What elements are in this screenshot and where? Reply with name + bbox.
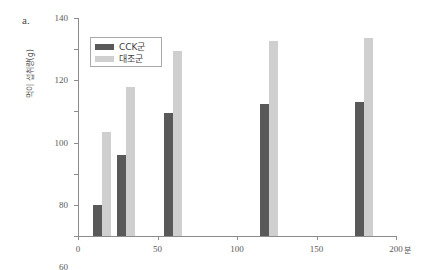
legend-item-control: 대조군 [95,53,157,64]
bar-cck [260,104,269,236]
x-tick-mark [158,236,159,240]
y-tick-label: 80 [59,200,68,210]
legend-swatch-control-icon [95,56,114,62]
bar-cck [164,113,173,236]
bar-cck [117,155,126,236]
y-tick-mark: 60 [74,143,78,144]
legend-label-control: 대조군 [119,54,143,64]
y-axis-title: 먹이 섭취량(g) [24,22,35,126]
y-axis-line [78,18,79,236]
bar-control [269,41,278,236]
y-tick-mark: 40 [74,174,78,175]
y-tick-label: 100 [55,137,69,147]
legend-label-cck: CCK군 [119,42,145,52]
x-tick-label: 0 [76,244,81,254]
y-tick-mark: 80 [74,111,78,112]
figure-panel-a: a. 먹이 섭취량(g) 020406080100120140 05010015… [0,0,426,270]
x-tick-mark [78,236,79,240]
x-tick-label: 100 [230,244,244,254]
bar-cck [93,205,102,236]
y-tick-label: 140 [55,13,69,23]
y-tick-mark: 120 [74,49,78,50]
chart-legend: CCK군 대조군 [90,37,162,67]
y-tick-mark: 100 [74,80,78,81]
x-tick-label: 150 [310,244,324,254]
x-tick-label: 50 [153,244,162,254]
bar-control [126,87,135,236]
y-tick-mark: 20 [74,205,78,206]
x-axis-unit-label: 분 [404,244,411,255]
x-tick-label: 200 [389,244,403,254]
legend-swatch-cck-icon [95,44,114,50]
x-tick-mark [237,236,238,240]
bar-control [364,38,373,236]
legend-item-cck: CCK군 [95,41,157,52]
x-tick-mark [396,236,397,240]
y-tick-label: 60 [59,262,68,270]
bar-control [102,132,111,236]
x-tick-mark [317,236,318,240]
bar-control [173,51,182,236]
bar-cck [355,102,364,236]
y-tick-mark: 140 [74,18,78,19]
y-tick-label: 120 [55,75,69,85]
